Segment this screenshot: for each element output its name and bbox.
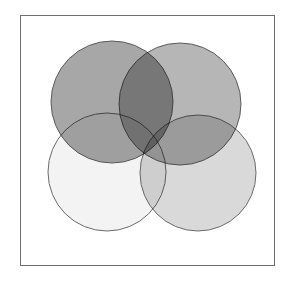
figure-root xyxy=(0,0,288,281)
plot-frame xyxy=(20,15,275,266)
